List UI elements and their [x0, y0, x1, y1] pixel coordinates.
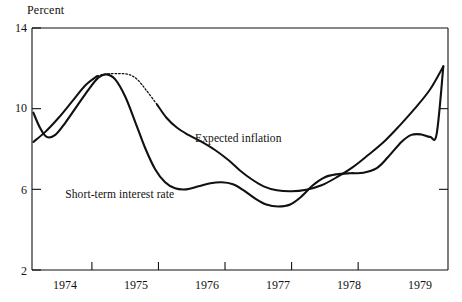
- y-axis-unit-label: Percent: [27, 4, 64, 16]
- y-axis-tick-label-6: 6: [5, 184, 27, 196]
- series-annotation-expected-inflation: Expected inflation: [195, 132, 281, 144]
- y-axis-tick-label-10: 10: [5, 102, 27, 114]
- axes: [32, 28, 448, 270]
- x-axis-tick-label-1978: 1978: [326, 279, 372, 291]
- x-axis-tick-label-1977: 1977: [255, 279, 301, 291]
- series-line-0-seg-2: [157, 66, 443, 191]
- x-axis-tick-label-1974: 1974: [42, 279, 88, 291]
- x-axis-tick-label-1976: 1976: [184, 279, 230, 291]
- x-axis-tick-marks: [92, 262, 358, 270]
- y-axis-tick-label-14: 14: [5, 22, 27, 34]
- y-axis-tick-marks: [32, 28, 448, 270]
- chart-figure: Percent 14 10 6 2 1974 1975 1976 1977 19…: [0, 0, 462, 302]
- series-annotation-short-term-interest-rate: Short-term interest rate: [65, 188, 174, 200]
- x-axis-tick-label-1979: 1979: [397, 279, 443, 291]
- plot-area: [0, 0, 462, 302]
- y-axis-tick-label-2: 2: [5, 265, 27, 277]
- x-axis-tick-label-1975: 1975: [113, 279, 159, 291]
